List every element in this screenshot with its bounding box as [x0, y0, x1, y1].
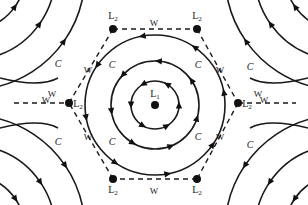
flow-arrow-icon — [36, 178, 43, 186]
vertex-node-label: L2 — [108, 10, 118, 23]
flow-arrow-icon — [139, 32, 146, 38]
hexagonal-flow-diagram: L1L2L2L2L2L2L2WWWWWWWWWWCCCCCCCC — [0, 0, 308, 205]
vertex-node-l2 — [109, 25, 117, 33]
w-label: W — [84, 132, 93, 142]
corner-arc — [285, 0, 308, 29]
corner-arc — [0, 0, 25, 29]
corner-arc — [225, 118, 308, 205]
flow-arrow-icon — [164, 171, 171, 177]
w-label: W — [260, 95, 269, 105]
flow-arrow-icon — [111, 158, 119, 165]
c-label: C — [195, 131, 202, 142]
vertex-node-label: L2 — [73, 98, 83, 111]
corner-arc — [225, 0, 308, 88]
corner-arc — [0, 0, 55, 58]
side-arc — [250, 123, 308, 128]
flow-arrow-icon — [59, 38, 66, 46]
c-label: C — [247, 61, 254, 72]
w-label: W — [42, 95, 51, 105]
w-label: W — [216, 65, 225, 75]
c-label: C — [55, 58, 62, 69]
c-label: C — [109, 59, 116, 70]
flow-arrow-icon — [192, 45, 200, 52]
flow-arrow-icon — [82, 114, 88, 121]
vertex-node-label: L2 — [242, 98, 252, 111]
flow-arrow-icon — [11, 195, 18, 203]
side-arc — [0, 123, 58, 128]
corner-arc — [255, 0, 308, 58]
flow-arrow-icon — [108, 108, 114, 115]
vertex-node-l2 — [193, 25, 201, 33]
w-label: W — [150, 18, 159, 28]
nodes — [65, 25, 242, 183]
flow-arrow-icon — [243, 161, 250, 169]
vertex-node-l2 — [193, 175, 201, 183]
corner-arc — [0, 147, 55, 205]
corner-arc — [0, 0, 85, 88]
side-arc — [0, 78, 58, 83]
diagram-canvas: L1L2L2L2L2L2L2WWWWWWWWWWCCCCCCCC — [0, 0, 308, 205]
flow-arrow-icon — [95, 61, 102, 69]
vertex-node-label: L2 — [192, 10, 202, 23]
w-label: W — [216, 132, 225, 142]
vertex-node-l2 — [234, 99, 242, 107]
vertex-node-l2 — [109, 175, 117, 183]
vertex-node-label: L2 — [192, 184, 202, 197]
flow-arrow-icon — [208, 142, 215, 150]
flow-arrow-icon — [155, 58, 162, 64]
corner-arc — [0, 118, 85, 205]
flow-arrow-icon — [244, 38, 251, 46]
flow-arrow-icon — [221, 89, 227, 96]
c-label: C — [195, 59, 202, 70]
flow-arrow-icon — [193, 115, 199, 123]
flow-arrow-icon — [128, 102, 134, 109]
corner-arc — [255, 147, 308, 205]
c-label: C — [247, 139, 254, 150]
w-label: W — [150, 186, 159, 196]
c-label: C — [55, 136, 62, 147]
center-node-l1 — [151, 101, 159, 109]
center-node-label: L1 — [150, 88, 160, 101]
vertex-node-label: L2 — [108, 184, 118, 197]
vertex-node-l2 — [65, 99, 73, 107]
w-label: W — [84, 65, 93, 75]
flow-arrow-icon — [176, 102, 182, 109]
flow-arrow-icon — [268, 178, 275, 186]
flow-arrow-icon — [164, 82, 172, 88]
corner-arc — [285, 176, 308, 205]
corner-arc — [0, 176, 25, 205]
flow-arrow-icon — [138, 121, 146, 127]
flow-arrow-icon — [292, 195, 299, 203]
flow-arrow-icon — [61, 161, 68, 169]
c-label: C — [109, 136, 116, 147]
